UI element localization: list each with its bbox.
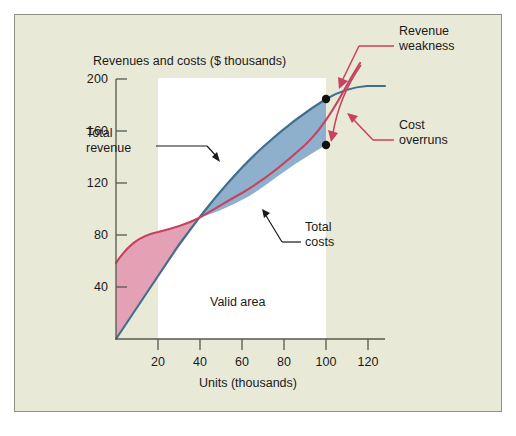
y-axis-title: Revenues and costs ($ thousands) (93, 54, 286, 69)
x-tick-label-40: 40 (186, 355, 214, 370)
y-tick-label-200: 200 (78, 72, 108, 87)
annotation-total-revenue-line1: Total (86, 126, 112, 141)
annotation-cost-overruns-line1: Cost (399, 118, 425, 133)
x-tick-label-80: 80 (270, 355, 298, 370)
annotation-cost-overruns-line2: overruns (399, 133, 448, 148)
annotation-total-costs-line1: Total (305, 220, 331, 235)
annotation-total-revenue-line2: revenue (86, 141, 131, 156)
annotation-total-costs-line2: costs (305, 235, 334, 250)
x-tick-label-100: 100 (312, 355, 340, 370)
x-tick-label-120: 120 (354, 355, 382, 370)
x-tick-label-60: 60 (228, 355, 256, 370)
x-axis-title: Units (thousands) (199, 376, 297, 391)
y-tick-label-80: 80 (78, 228, 108, 243)
x-tick-label-20: 20 (144, 355, 172, 370)
annotation-revenue-weakness-line1: Revenue (399, 24, 449, 39)
annotation-revenue-weakness-line2: weakness (399, 39, 455, 54)
revenue-weakness-leader (338, 46, 394, 89)
y-tick-label-120: 120 (78, 176, 108, 191)
chart-figure: Revenues and costs ($ thousands) 200 160… (0, 0, 516, 436)
marker-cost-at-100 (322, 141, 330, 149)
annotation-valid-area: Valid area (210, 295, 265, 310)
marker-revenue-at-100 (322, 95, 330, 103)
cost-overruns-leader (347, 113, 394, 140)
chart-frame: Revenues and costs ($ thousands) 200 160… (14, 14, 502, 412)
x-axis-ticks (158, 339, 368, 350)
y-tick-label-40: 40 (78, 280, 108, 295)
